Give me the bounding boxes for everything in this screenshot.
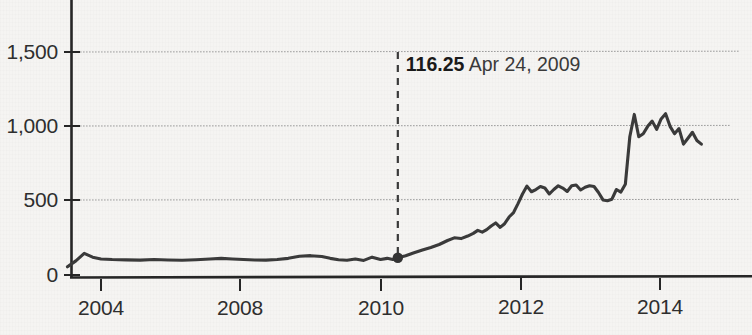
x-tick-marks [101, 278, 660, 291]
x-axis-label-2008: 2008 [200, 296, 280, 320]
gridline-500 [71, 199, 740, 200]
x-axis-label-2012: 2012 [481, 295, 561, 319]
annotation-value: 116.25 [406, 53, 465, 75]
x-axis-label-2010: 2010 [341, 296, 421, 320]
gridline-1500 [71, 51, 740, 52]
y-axis-label-500: 500 [0, 188, 58, 212]
x-axis-label-2014: 2014 [620, 295, 700, 319]
y-axis-label-1000: 1,000 [0, 114, 58, 138]
stock-price-line-chart: 1,500 1,000 500 0 2004 2008 2010 2012 20… [0, 0, 752, 335]
plot-area [0, 0, 752, 335]
highlighted-data-point[interactable] [393, 253, 403, 263]
annotation-callout: 116.25 Apr 24, 2009 [406, 53, 581, 76]
y-axis-label-1500: 1,500 [0, 40, 58, 64]
y-axis-label-0: 0 [0, 263, 58, 287]
x-axis-spine [70, 276, 752, 277]
axes [70, 0, 752, 278]
x-axis-label-2004: 2004 [61, 296, 141, 320]
annotation-date: Apr 24, 2009 [469, 53, 581, 75]
price-series-line [67, 114, 701, 267]
